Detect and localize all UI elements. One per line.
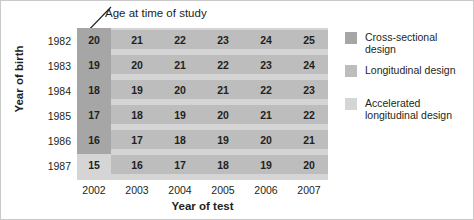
cell-1985-2004: 19 [163, 103, 197, 128]
cell-1986-2006: 20 [249, 128, 283, 153]
x-tick-2005: 2005 [203, 184, 243, 196]
cell-1986-2007: 21 [292, 128, 326, 153]
x-axis-ticks: 2002 2003 2004 2005 2006 2007 [77, 184, 328, 198]
legend-label-accelerated-longitudinal: Accelerated longitudinal design [365, 97, 471, 121]
x-tick-2002: 2002 [74, 184, 114, 196]
cell-1983-2006: 23 [249, 53, 283, 78]
y-axis-title: Year of birth [13, 14, 25, 144]
x-tick-2006: 2006 [246, 184, 286, 196]
legend-swatch-accelerated-longitudinal [345, 98, 357, 110]
cell-1984-2002: 18 [77, 78, 111, 103]
cell-1984-2005: 21 [206, 78, 240, 103]
cell-1983-2004: 21 [163, 53, 197, 78]
cell-1986-2003: 17 [120, 128, 154, 153]
x-axis-title: Year of test [77, 200, 328, 212]
cell-1987-2006: 19 [249, 153, 283, 178]
legend-item-cross-sectional: Cross-sectional design [345, 31, 471, 55]
legend-item-longitudinal: Longitudinal design [345, 64, 471, 88]
cell-1984-2004: 20 [163, 78, 197, 103]
legend-swatch-cross-sectional [345, 32, 357, 44]
plot-panel: 20 21 22 23 24 25 19 20 21 22 23 24 18 1… [77, 28, 328, 180]
cell-1984-2006: 22 [249, 78, 283, 103]
cell-1987-2005: 18 [206, 153, 240, 178]
legend-label-longitudinal: Longitudinal design [365, 64, 471, 76]
cell-1982-2006: 24 [249, 28, 283, 53]
y-tick-1987: 1987 [39, 160, 71, 172]
cell-1982-2002: 20 [77, 28, 111, 53]
cell-1985-2003: 18 [120, 103, 154, 128]
cell-1982-2003: 21 [120, 28, 154, 53]
y-tick-1982: 1982 [39, 35, 71, 47]
y-tick-1983: 1983 [39, 60, 71, 72]
cell-1983-2005: 22 [206, 53, 240, 78]
cell-1985-2005: 20 [206, 103, 240, 128]
callout-label: Age at time of study [105, 7, 207, 19]
x-tick-2004: 2004 [160, 184, 200, 196]
legend: Cross-sectional design Longitudinal desi… [345, 31, 471, 130]
cell-1983-2007: 24 [292, 53, 326, 78]
x-tick-2003: 2003 [117, 184, 157, 196]
figure-container: Age at time of study Year of birth 1982 … [0, 0, 474, 220]
cell-1986-2005: 19 [206, 128, 240, 153]
cell-1982-2005: 23 [206, 28, 240, 53]
cell-1987-2002: 15 [77, 153, 111, 178]
cell-1987-2003: 16 [120, 153, 154, 178]
cell-1983-2002: 19 [77, 53, 111, 78]
cell-1985-2002: 17 [77, 103, 111, 128]
cell-1984-2007: 23 [292, 78, 326, 103]
cell-1985-2007: 22 [292, 103, 326, 128]
legend-item-accelerated-longitudinal: Accelerated longitudinal design [345, 97, 471, 121]
cell-1982-2007: 25 [292, 28, 326, 53]
cell-1982-2004: 22 [163, 28, 197, 53]
legend-label-cross-sectional: Cross-sectional design [365, 31, 471, 55]
y-tick-1986: 1986 [39, 135, 71, 147]
cell-1986-2002: 16 [77, 128, 111, 153]
cell-1984-2003: 19 [120, 78, 154, 103]
y-tick-1985: 1985 [39, 110, 71, 122]
y-tick-1984: 1984 [39, 85, 71, 97]
legend-swatch-longitudinal [345, 65, 357, 77]
cell-1987-2007: 20 [292, 153, 326, 178]
y-axis-ticks: 1982 1983 1984 1985 1986 1987 [37, 28, 71, 180]
x-tick-2007: 2007 [289, 184, 329, 196]
cell-1987-2004: 17 [163, 153, 197, 178]
cell-1986-2004: 18 [163, 128, 197, 153]
cell-1983-2003: 20 [120, 53, 154, 78]
cell-1985-2006: 21 [249, 103, 283, 128]
